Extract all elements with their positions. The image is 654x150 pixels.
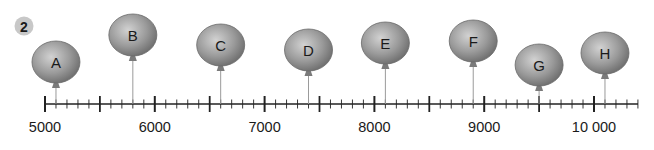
balloon-letter: G xyxy=(533,57,545,74)
balloon-a: A xyxy=(32,41,80,104)
balloon-b: B xyxy=(109,14,157,104)
balloon-letter: E xyxy=(380,35,390,52)
axis-label: 10 000 xyxy=(572,119,616,135)
balloon-h: H xyxy=(581,32,629,104)
number-line-diagram: 2 5000600070008000900010 000 ABCDEFGH xyxy=(0,0,654,150)
balloon-letter: F xyxy=(469,33,478,50)
axis-label: 5000 xyxy=(29,119,61,135)
question-badge: 2 xyxy=(15,17,34,36)
balloon-c: C xyxy=(197,24,245,104)
axis-label: 8000 xyxy=(358,119,390,135)
question-number: 2 xyxy=(20,19,28,35)
balloon-letter: A xyxy=(51,54,61,71)
balloon-g: G xyxy=(515,44,563,104)
balloon-letter: C xyxy=(215,37,226,54)
balloons: ABCDEFGH xyxy=(32,14,629,104)
balloon-letter: H xyxy=(600,45,611,62)
axis-label: 9000 xyxy=(468,119,500,135)
axis-label: 6000 xyxy=(139,119,171,135)
balloon-letter: B xyxy=(128,27,138,44)
balloon-d: D xyxy=(285,29,333,104)
axis-label: 7000 xyxy=(248,119,280,135)
number-line: 5000600070008000900010 000 xyxy=(29,96,638,135)
balloon-f: F xyxy=(449,20,497,104)
balloon-letter: D xyxy=(303,42,314,59)
balloon-e: E xyxy=(361,22,409,104)
